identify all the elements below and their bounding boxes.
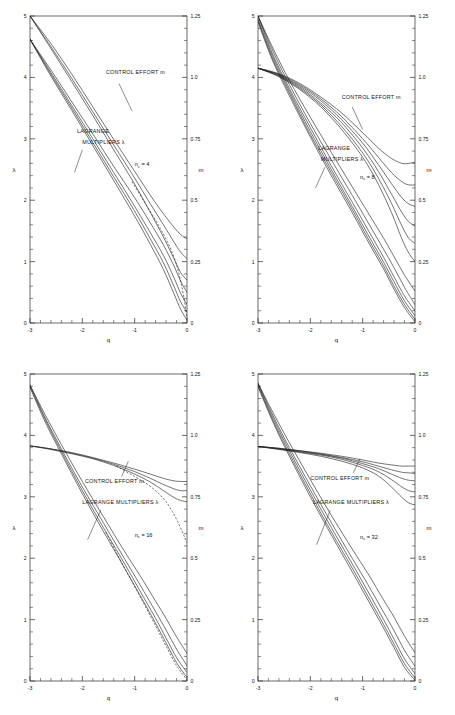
- nc-annotation: nc = 8: [360, 174, 375, 182]
- y2-axis-label: m: [427, 525, 432, 531]
- annotation-label: MULTIPLIERS λ: [321, 156, 363, 162]
- annotation-label: LAGRANGE MULTIPLIERS λ: [82, 499, 158, 505]
- annotation-label: CONTROL EFFORT m: [85, 478, 144, 484]
- y2-tick-label: 0.75: [419, 494, 429, 500]
- y2-tick-label: 0: [419, 320, 422, 326]
- y2-tick-label: 0.75: [419, 136, 429, 142]
- x-tick-label: -1: [360, 327, 365, 333]
- y-axis-label: λ: [241, 525, 244, 531]
- annotation-label: MULTIPLIERS λ: [82, 139, 124, 145]
- y-tick-label: 2: [24, 197, 27, 203]
- curve-group: [30, 16, 187, 320]
- y-axis-label: λ: [13, 525, 16, 531]
- x-tick-label: -2: [308, 327, 313, 333]
- y2-tick-label: 1.25: [191, 13, 201, 19]
- curve-lagrange-1: [258, 383, 415, 653]
- annotation-leader-line: [119, 84, 132, 112]
- y-tick-label: 3: [24, 136, 27, 142]
- x-tick-label: -3: [256, 327, 261, 333]
- y2-tick-label: 1.0: [191, 74, 198, 80]
- y2-tick-label: 0.5: [419, 197, 426, 203]
- curve-lagrange-5-dashed: [106, 532, 187, 679]
- figure-container: 012345λ00.250.50.751.01.25m-3-2-10qCONTR…: [0, 0, 455, 715]
- x-tick-label: -2: [80, 685, 85, 691]
- y2-tick-label: 0.5: [191, 555, 198, 561]
- x-tick-label: 0: [186, 685, 189, 691]
- curve-lagrange-3: [258, 16, 415, 311]
- y-tick-label: 1: [252, 617, 255, 623]
- annotation-label: LAGRANGE: [77, 128, 109, 134]
- curve-control-effort-2: [258, 68, 415, 185]
- annotation-label: CONTROL EFFORT m: [310, 475, 369, 481]
- y-tick-label: 3: [252, 494, 255, 500]
- panel-nc-16: 012345λ00.250.50.751.01.25m-3-2-10qCONTR…: [0, 358, 227, 715]
- y-tick-label: 0: [24, 678, 27, 684]
- annotation-leader-line: [317, 510, 331, 544]
- annotation-leader-line: [316, 167, 325, 188]
- curve-lagrange-2: [258, 383, 415, 666]
- y-axis-label: λ: [13, 167, 16, 173]
- y-tick-label: 1: [24, 617, 27, 623]
- x-axis-label: q: [335, 695, 338, 701]
- y-tick-label: 4: [252, 432, 255, 438]
- y2-axis-label: m: [199, 167, 204, 173]
- y-tick-label: 2: [252, 197, 255, 203]
- curve-lagrange-4: [258, 19, 415, 316]
- y2-tick-label: 1.25: [191, 371, 201, 377]
- y2-tick-label: 0: [191, 678, 194, 684]
- plot-area: 012345λ00.250.50.751.01.25m-3-2-10qCONTR…: [228, 358, 455, 715]
- curve-group: [258, 383, 415, 680]
- y-axis-label: λ: [241, 167, 244, 173]
- curve-lagrange-1: [258, 16, 415, 291]
- panel-nc-32: 012345λ00.250.50.751.01.25m-3-2-10qCONTR…: [228, 358, 455, 715]
- plot-area: 012345λ00.250.50.751.01.25m-3-2-10qCONTR…: [228, 0, 455, 357]
- nc-value: = 8: [365, 174, 375, 180]
- y-tick-label: 3: [252, 136, 255, 142]
- curve-group: [258, 16, 415, 322]
- curve-lagrange-3: [30, 386, 187, 672]
- x-tick-label: -3: [28, 327, 33, 333]
- y-tick-label: 0: [252, 678, 255, 684]
- x-axis-label: q: [107, 695, 110, 701]
- y-tick-label: 1: [252, 259, 255, 265]
- panel-nc-8: 012345λ00.250.50.751.01.25m-3-2-10qCONTR…: [228, 0, 455, 357]
- y2-tick-label: 0.5: [419, 555, 426, 561]
- x-tick-label: 0: [414, 327, 417, 333]
- curve-lagrange-3: [258, 384, 415, 673]
- nc-value: = 16: [140, 532, 153, 538]
- curve-control-effort-4: [258, 446, 415, 491]
- y-tick-label: 5: [24, 371, 27, 377]
- y2-tick-label: 0.25: [191, 617, 201, 623]
- y2-tick-label: 1.0: [419, 432, 426, 438]
- y-tick-label: 2: [24, 555, 27, 561]
- y2-tick-label: 0.5: [191, 197, 198, 203]
- curve-lagrange-1: [30, 39, 187, 292]
- y-tick-label: 4: [252, 74, 255, 80]
- y2-tick-label: 0: [191, 320, 194, 326]
- curve-group: [30, 385, 187, 680]
- y2-tick-label: 0.75: [191, 494, 201, 500]
- y2-axis-label: m: [199, 525, 204, 531]
- curve-control-effort-3: [30, 446, 187, 502]
- y2-tick-label: 0: [419, 678, 422, 684]
- annotation-leader-line: [352, 107, 362, 130]
- x-tick-label: 0: [186, 327, 189, 333]
- curve-control-effort-3: [30, 16, 187, 280]
- annotation-leader-line: [353, 459, 360, 473]
- curve-lagrange-4: [30, 39, 187, 320]
- nc-annotation: nc = 4: [135, 161, 150, 169]
- annotation-label: CONTROL EFFORT m: [106, 69, 165, 75]
- y-tick-label: 5: [24, 13, 27, 19]
- y-tick-label: 3: [24, 494, 27, 500]
- x-tick-label: -1: [360, 685, 365, 691]
- plot-frame: [30, 374, 187, 681]
- x-axis-label: q: [107, 337, 110, 343]
- y2-tick-label: 0.25: [419, 259, 429, 265]
- y-tick-label: 5: [252, 13, 255, 19]
- y2-tick-label: 1.0: [191, 432, 198, 438]
- y-tick-label: 0: [252, 320, 255, 326]
- nc-value: = 4: [140, 161, 150, 167]
- plot-area: 012345λ00.250.50.751.01.25m-3-2-10qCONTR…: [0, 358, 227, 715]
- annotation-label: CONTROL EFFORT m: [342, 94, 401, 100]
- curve-lagrange-5: [258, 387, 415, 681]
